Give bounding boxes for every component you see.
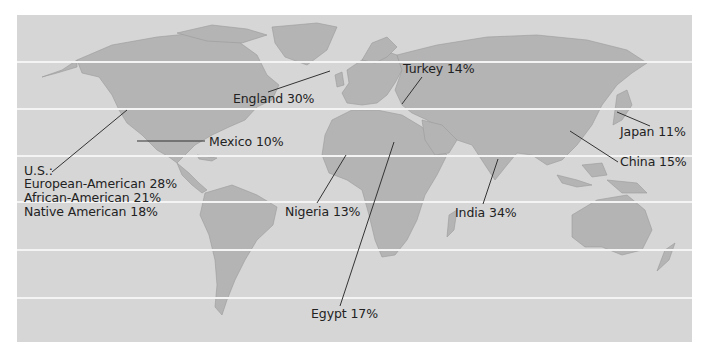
label-india: India 34% (455, 206, 517, 220)
latitude-line (17, 108, 692, 110)
label-mexico: Mexico 10% (209, 135, 283, 149)
latitude-line (17, 249, 692, 251)
label-egypt: Egypt 17% (311, 307, 378, 321)
latitude-line (17, 61, 692, 63)
label-us-native: Native American 18% (24, 205, 158, 219)
latitude-line (17, 297, 692, 299)
label-japan: Japan 11% (620, 125, 686, 139)
label-england: England 30% (233, 92, 314, 106)
label-us-african: African-American 21% (24, 191, 161, 205)
australia (572, 195, 652, 255)
greenland (272, 23, 337, 65)
latitude-line (17, 155, 692, 157)
label-us-european: European-American 28% (24, 177, 177, 191)
label-nigeria: Nigeria 13% (285, 205, 360, 219)
label-turkey: Turkey 14% (403, 62, 474, 76)
label-china: China 15% (620, 155, 687, 169)
